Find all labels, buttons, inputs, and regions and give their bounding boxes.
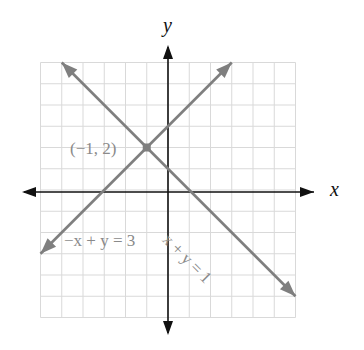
y-axis-arrow-up-icon bbox=[163, 45, 173, 59]
intersection-point-marker bbox=[143, 144, 151, 152]
plot-svg bbox=[0, 0, 364, 350]
x-axis-arrow-left-icon bbox=[22, 187, 36, 197]
intersection-label: (−1, 2) bbox=[70, 139, 116, 159]
line1-equation-label: −x + y = 3 bbox=[64, 231, 135, 251]
x-axis-label: x bbox=[330, 178, 339, 201]
x-axis-arrow-right-icon bbox=[300, 187, 314, 197]
y-axis-label: y bbox=[163, 14, 172, 37]
coordinate-graph: y x (−1, 2) −x + y = 3 x + y = 1 bbox=[0, 0, 364, 350]
y-axis-arrow-down-icon bbox=[163, 321, 173, 335]
